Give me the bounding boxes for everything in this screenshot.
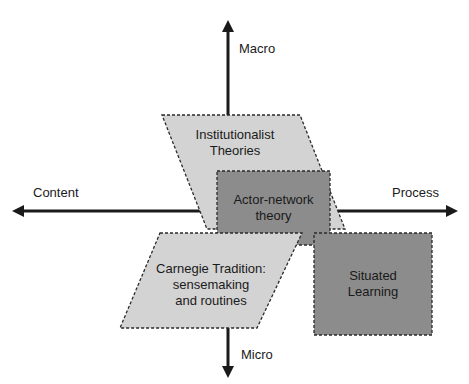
label-line: theory <box>217 208 330 224</box>
actor-network-theory-label: Actor-network theory <box>217 192 330 224</box>
situated-learning-label: Situated Learning <box>314 268 432 300</box>
label-line: Learning <box>314 284 432 300</box>
macro-label: Macro <box>239 41 275 57</box>
quadrant-diagram: Macro Micro Content Process Institutiona… <box>0 0 469 384</box>
micro-label: Micro <box>241 347 273 363</box>
label-line: sensemaking <box>148 277 274 293</box>
label-line: Situated <box>314 268 432 284</box>
label-line: Theories <box>180 143 290 159</box>
label-line: Carnegie Tradition: <box>148 261 274 277</box>
label-line: Institutionalist <box>180 127 290 143</box>
institutionalist-theories-label: Institutionalist Theories <box>180 127 290 159</box>
arrow-right-icon <box>446 205 458 217</box>
arrow-up-icon <box>222 20 234 32</box>
label-line: Actor-network <box>217 192 330 208</box>
process-label: Process <box>392 185 439 201</box>
label-line: and routines <box>148 293 274 309</box>
arrow-left-icon <box>12 205 24 217</box>
content-label: Content <box>33 185 79 201</box>
carnegie-tradition-label: Carnegie Tradition: sensemaking and rout… <box>148 261 274 309</box>
arrow-down-icon <box>222 366 234 378</box>
